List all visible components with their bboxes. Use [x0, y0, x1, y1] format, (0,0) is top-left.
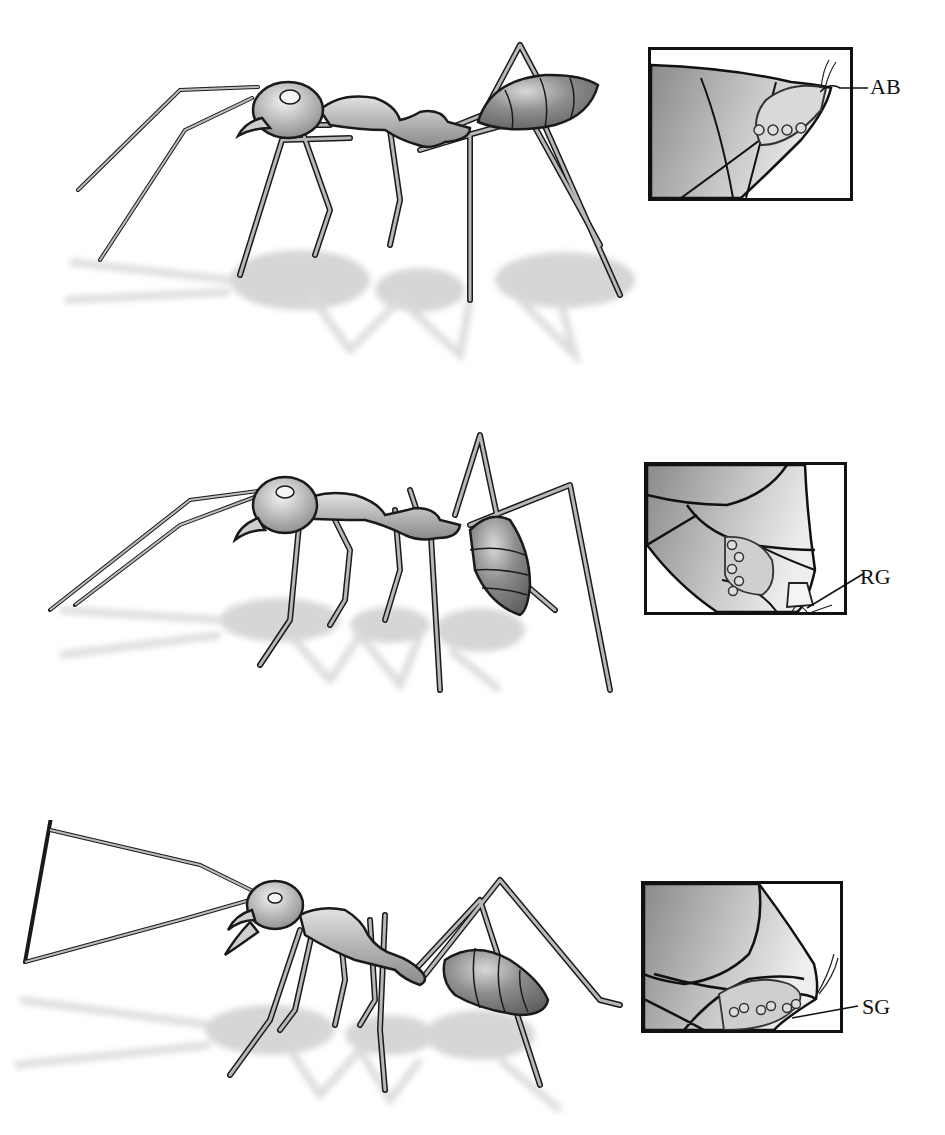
ant-shadow: [65, 250, 635, 355]
label-rg: RG: [860, 566, 891, 588]
leader-line-rg: [805, 570, 865, 610]
label-ab: AB: [870, 76, 901, 98]
leader-line-sg: [790, 1002, 860, 1022]
gaster-tip-detail-ab: [651, 50, 850, 198]
figure-panel-3: SG: [0, 820, 945, 1135]
leader-line-ab: [820, 80, 870, 100]
figure-panel-2: RG: [0, 420, 945, 720]
label-sg: SG: [862, 996, 890, 1018]
detail-inset-ab: [648, 47, 853, 201]
figure-panel-1: AB: [0, 0, 945, 380]
